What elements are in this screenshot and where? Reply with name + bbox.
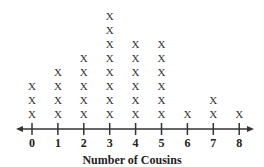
x-mark: X bbox=[52, 81, 64, 92]
x-mark: X bbox=[130, 81, 142, 92]
tick-label-3: 3 bbox=[103, 136, 117, 151]
x-mark: X bbox=[104, 67, 116, 78]
tick-label-0: 0 bbox=[25, 136, 39, 151]
tick-label-6: 6 bbox=[180, 136, 194, 151]
tick-label-8: 8 bbox=[232, 136, 246, 151]
right-arrow-icon bbox=[247, 126, 254, 132]
x-mark: X bbox=[207, 109, 219, 120]
x-mark: X bbox=[78, 109, 90, 120]
tick-label-2: 2 bbox=[77, 136, 91, 151]
tick-label-1: 1 bbox=[51, 136, 65, 151]
x-mark: X bbox=[104, 109, 116, 120]
x-mark: X bbox=[26, 81, 38, 92]
x-mark: X bbox=[207, 95, 219, 106]
x-mark: X bbox=[78, 67, 90, 78]
x-mark: X bbox=[26, 95, 38, 106]
x-mark: X bbox=[78, 95, 90, 106]
x-mark: X bbox=[130, 67, 142, 78]
x-mark: X bbox=[156, 95, 168, 106]
x-mark: X bbox=[130, 39, 142, 50]
x-mark: X bbox=[78, 53, 90, 64]
dot-plot: XXXXXXXXXXXXXXXXXXXXXXXXXXXXXXXXXXXX 012… bbox=[0, 0, 264, 167]
x-mark: X bbox=[156, 109, 168, 120]
x-mark: X bbox=[104, 11, 116, 22]
x-axis-title: Number of Cousins bbox=[0, 153, 264, 167]
tick-label-5: 5 bbox=[155, 136, 169, 151]
x-mark: X bbox=[52, 67, 64, 78]
x-mark: X bbox=[52, 95, 64, 106]
x-mark: X bbox=[233, 109, 245, 120]
x-mark: X bbox=[130, 109, 142, 120]
x-mark: X bbox=[130, 95, 142, 106]
x-mark: X bbox=[156, 39, 168, 50]
tick-label-4: 4 bbox=[129, 136, 143, 151]
x-mark: X bbox=[156, 67, 168, 78]
x-mark: X bbox=[104, 25, 116, 36]
x-mark: X bbox=[156, 53, 168, 64]
x-mark: X bbox=[181, 109, 193, 120]
x-mark: X bbox=[104, 39, 116, 50]
x-mark: X bbox=[104, 95, 116, 106]
tick-label-7: 7 bbox=[206, 136, 220, 151]
x-mark: X bbox=[26, 109, 38, 120]
left-arrow-icon bbox=[16, 126, 23, 132]
x-mark: X bbox=[78, 81, 90, 92]
x-mark: X bbox=[52, 109, 64, 120]
x-mark: X bbox=[130, 53, 142, 64]
x-mark: X bbox=[156, 81, 168, 92]
x-mark: X bbox=[104, 53, 116, 64]
x-mark: X bbox=[104, 81, 116, 92]
